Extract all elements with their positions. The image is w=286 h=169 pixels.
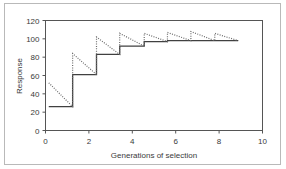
- y-tick-labels: 020406080100120: [26, 17, 40, 136]
- response-to-selection-chart: 020406080100120 0246810 Generations of s…: [0, 0, 286, 169]
- x-tick-label: 8: [217, 137, 222, 146]
- x-tick-label: 0: [43, 137, 48, 146]
- x-tick-label: 4: [130, 137, 135, 146]
- series-line-solid: [49, 41, 238, 107]
- data-series-layer: [49, 32, 238, 107]
- x-axis-title: Generations of selection: [111, 151, 197, 160]
- y-tick-label: 80: [31, 53, 40, 62]
- x-tick-label: 6: [173, 137, 178, 146]
- chart-figure: 020406080100120 0246810 Generations of s…: [0, 0, 286, 169]
- x-tick-labels: 0246810: [43, 137, 267, 146]
- series-line-dotted: [49, 32, 238, 107]
- x-tick-label: 10: [258, 137, 267, 146]
- y-tick-label: 60: [31, 72, 40, 81]
- y-tick-label: 0: [35, 127, 40, 136]
- x-tick-label: 2: [87, 137, 92, 146]
- y-tick-label: 120: [26, 17, 40, 26]
- y-tick-label: 40: [31, 90, 40, 99]
- y-tick-label: 20: [31, 108, 40, 117]
- y-tick-label: 100: [26, 35, 40, 44]
- y-axis-title: Response: [15, 57, 24, 94]
